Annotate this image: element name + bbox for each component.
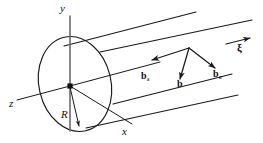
cylinder-body [64, 12, 252, 128]
vector-b-edge-arrow [189, 48, 215, 68]
cylinder-generator-bottom-front [86, 95, 238, 128]
diagram-canvas [0, 0, 263, 143]
radius-label: R [61, 109, 68, 120]
vector-b-screw-arrow [152, 48, 189, 60]
vector-label-b-screw: bs [141, 71, 149, 81]
radius-indicator [70, 87, 79, 126]
axis-label-x: x [122, 126, 127, 137]
vector-label-b-total: b [177, 79, 183, 89]
vector-label-b-edge-subscript: e [219, 73, 222, 80]
cylinder-cross-section-ellipse [29, 29, 121, 139]
line-direction-label-xi: ξ [237, 42, 242, 53]
origin-dot-icon [67, 83, 72, 88]
cylinder-generator-top-front [64, 12, 196, 46]
axis-x-line [70, 86, 132, 124]
axis-label-z: z [9, 98, 13, 109]
cross-section-outline [29, 29, 121, 139]
axis-z-line [17, 86, 70, 100]
vector-label-b-total-base: b [177, 78, 183, 89]
cylinder-generator-top-back [100, 20, 252, 52]
vector-label-b-edge: be [213, 69, 221, 79]
burgers-vectors [152, 48, 215, 79]
axis-label-y: y [60, 3, 65, 14]
radius-arrow [70, 87, 79, 126]
origin-marker [67, 83, 72, 88]
vector-b-total-arrow [180, 48, 189, 79]
cylinder-burgers-vector-diagram: y z x R bs b be ξ [0, 0, 263, 143]
vector-label-b-screw-subscript: s [147, 75, 150, 82]
vector-label-b-edge-base: b [213, 68, 219, 79]
vector-label-b-screw-base: b [141, 70, 147, 81]
